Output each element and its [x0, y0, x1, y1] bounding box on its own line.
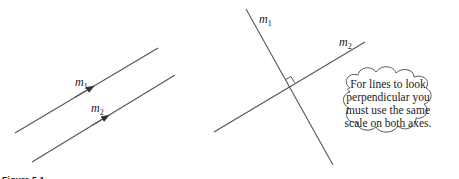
line-m2-perp — [214, 42, 365, 132]
parallel-lines-diagram: m1 m2 — [15, 48, 175, 162]
callout-line-1: For lines to look — [350, 78, 426, 90]
callout-line-4: scale on both axes. — [345, 117, 432, 129]
figure-canvas: m1 m2 m1 m2 For lines to look perpendicu… — [0, 0, 459, 179]
label-m2-right: m2 — [339, 35, 352, 51]
callout-line-2: perpendicular you — [346, 91, 430, 104]
figure-caption: Figure 5.1 — [2, 175, 45, 179]
arrow-m2 — [92, 117, 106, 126]
thought-cloud-callout: For lines to look perpendicular you must… — [343, 67, 431, 132]
label-m2-left: m2 — [91, 101, 104, 117]
label-m1-left: m1 — [75, 75, 88, 91]
perpendicular-lines-diagram: m1 m2 — [214, 9, 365, 165]
label-m1-right: m1 — [259, 12, 272, 28]
callout-line-3: must use the same — [346, 104, 430, 116]
